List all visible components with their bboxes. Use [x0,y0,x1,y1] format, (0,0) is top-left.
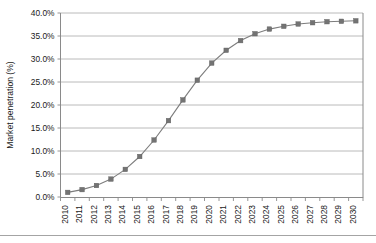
x-axis-tick-labels: 2010201120122013201420152016201720182019… [60,205,358,224]
x-tick-label: 2019 [189,205,199,224]
data-point-marker [123,167,128,172]
y-tick-label: 5.0% [35,169,55,179]
data-point-marker [325,19,330,24]
x-tick-label: 2021 [218,205,228,224]
data-point-marker [209,61,214,66]
x-tick-label: 2022 [233,205,243,224]
y-tick-label: 25.0% [31,77,55,87]
data-point-marker [181,98,186,103]
x-tick-label: 2015 [132,205,142,224]
x-tick-label: 2020 [204,205,214,224]
data-point-marker [339,19,344,24]
data-point-marker [152,138,157,143]
x-tick-label: 2030 [348,205,358,224]
data-point-marker [80,187,85,192]
x-tick-label: 2028 [319,205,329,224]
x-tick-label: 2011 [74,205,84,223]
data-point-marker [282,24,287,29]
data-point-marker [94,183,99,188]
data-point-marker [195,78,200,83]
x-tick-label: 2014 [117,205,127,224]
y-tick-label: 35.0% [31,31,55,41]
data-point-marker [253,31,258,36]
y-tick-label: 15.0% [31,123,55,133]
x-tick-label: 2017 [161,205,171,224]
y-tick-label: 0.0% [35,192,55,202]
x-tick-label: 2018 [175,205,185,224]
y-tick-label: 30.0% [31,54,55,64]
x-tick-label: 2025 [276,205,286,224]
x-tick-label: 2026 [290,205,300,224]
data-point-marker [224,48,229,53]
x-tick-label: 2012 [89,205,99,224]
x-tick-label: 2013 [103,205,113,224]
data-point-marker [310,20,315,25]
market-penetration-line-chart: 0.0%5.0%10.0%15.0%20.0%25.0%30.0%35.0%40… [0,0,376,243]
data-point-marker [267,27,272,32]
y-tick-label: 40.0% [31,8,55,18]
data-point-marker [166,118,171,123]
data-point-marker [65,190,70,195]
x-tick-label: 2010 [60,205,70,224]
data-point-marker [109,177,114,182]
x-tick-label: 2027 [305,205,315,224]
y-tick-label: 20.0% [31,100,55,110]
x-tick-label: 2023 [247,205,257,224]
data-point-marker [296,22,301,27]
x-tick-label: 2016 [146,205,156,224]
y-axis-title: Market penetration (%) [5,61,15,149]
data-point-marker [137,154,142,159]
chart-figure: 0.0%5.0%10.0%15.0%20.0%25.0%30.0%35.0%40… [0,0,376,243]
x-tick-label: 2029 [333,205,343,224]
x-tick-label: 2024 [261,205,271,224]
data-point-marker [354,19,359,24]
data-point-marker [238,38,243,43]
y-tick-label: 10.0% [31,146,55,156]
